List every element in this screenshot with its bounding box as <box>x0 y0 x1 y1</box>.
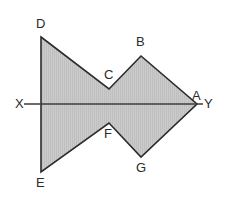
vertex-label-C: C <box>104 68 113 81</box>
vertex-label-G: G <box>136 161 146 174</box>
vertex-label-A: A <box>192 89 201 102</box>
axis-label-Y: Y <box>204 97 213 110</box>
vertex-label-B: B <box>136 35 145 48</box>
vertex-label-D: D <box>36 17 45 30</box>
vertex-label-F: F <box>104 127 112 140</box>
geometry-figure: D C B A G F E X Y <box>0 0 231 203</box>
vertex-label-E: E <box>36 176 45 189</box>
axis-label-X: X <box>15 97 24 110</box>
